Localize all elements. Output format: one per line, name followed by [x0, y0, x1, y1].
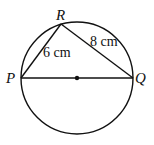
label-r: R [55, 7, 65, 23]
side-rq [61, 24, 133, 78]
length-rq: 8 cm [90, 34, 118, 49]
length-pr: 6 cm [43, 45, 71, 60]
center-point [75, 76, 79, 80]
label-q: Q [135, 70, 146, 86]
label-p: P [5, 70, 15, 86]
circle-diagram: R P Q 6 cm 8 cm [0, 0, 154, 145]
